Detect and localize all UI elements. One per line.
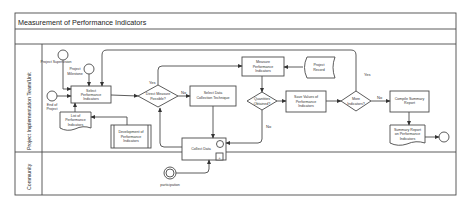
document-summary-report[interactable]: Summary Report on Performance Indicators bbox=[390, 125, 425, 145]
end-event-icon[interactable] bbox=[439, 132, 449, 142]
svg-text:Direct Measure: Direct Measure bbox=[146, 92, 170, 96]
task-collect-data[interactable]: Collect Data + bbox=[182, 138, 226, 160]
svg-text:Save Values of: Save Values of bbox=[294, 95, 318, 99]
svg-text:More: More bbox=[352, 97, 360, 101]
document-list-performance-indicators[interactable]: List of Performance Indicators bbox=[60, 112, 91, 130]
svg-text:Yes: Yes bbox=[364, 72, 371, 77]
svg-text:Project: Project bbox=[46, 107, 57, 111]
start-event-end-of-project-icon[interactable]: End of Project bbox=[46, 91, 57, 111]
task-save-values[interactable]: Save Values of Performance Indicators bbox=[286, 91, 326, 112]
diagram-title: Measurement of Performance Indicators bbox=[18, 18, 147, 27]
svg-text:Project: Project bbox=[313, 63, 324, 67]
svg-text:Report: Report bbox=[404, 101, 415, 105]
svg-text:Quantities: Quantities bbox=[254, 97, 270, 101]
svg-text:Project Supervision: Project Supervision bbox=[41, 60, 72, 64]
task-measure-performance-indicators[interactable]: Measure Performance Indicators bbox=[242, 57, 284, 76]
svg-text:Indicators: Indicators bbox=[83, 97, 99, 101]
lane-label-community: Community bbox=[26, 163, 32, 190]
svg-text:Collect Data: Collect Data bbox=[191, 147, 211, 151]
task-select-performance-indicators[interactable]: Select Performance Indicators bbox=[71, 86, 111, 103]
svg-text:Indicators?: Indicators? bbox=[347, 102, 365, 106]
svg-text:+: + bbox=[218, 156, 220, 160]
gateway-direct-measure[interactable]: Direct Measure Possible? bbox=[138, 85, 178, 107]
gateway-more-indicators[interactable]: More Indicators? bbox=[341, 91, 371, 111]
svg-text:Project Implementation Team/Un: Project Implementation Team/Unit bbox=[26, 72, 32, 150]
svg-text:Performance: Performance bbox=[65, 118, 86, 122]
svg-text:Project: Project bbox=[69, 67, 80, 71]
svg-text:Indicators: Indicators bbox=[400, 137, 416, 141]
svg-text:Performance: Performance bbox=[296, 100, 317, 104]
svg-text:No: No bbox=[266, 124, 272, 129]
task-compile-summary-report[interactable]: Compile Summary Report bbox=[390, 91, 429, 112]
svg-text:Milestone: Milestone bbox=[67, 72, 82, 76]
data-store-project-record[interactable]: Project Record bbox=[305, 57, 336, 78]
start-event-participation-icon[interactable]: participation bbox=[160, 167, 179, 187]
svg-text:Performance: Performance bbox=[253, 65, 274, 69]
start-event-project-milestone-icon[interactable]: Project Milestone bbox=[67, 64, 94, 76]
svg-text:Indicators: Indicators bbox=[255, 69, 271, 73]
svg-text:Record: Record bbox=[313, 68, 325, 72]
start-event-project-supervision-icon[interactable]: Project Supervision bbox=[41, 50, 72, 64]
svg-text:Indicators: Indicators bbox=[298, 104, 314, 108]
svg-text:No: No bbox=[377, 95, 383, 100]
svg-text:Community: Community bbox=[26, 163, 32, 190]
svg-text:Collection Technique: Collection Technique bbox=[196, 96, 229, 100]
task-select-data-collection-technique[interactable]: Select Data Collection Technique bbox=[190, 86, 236, 106]
svg-text:Indicators: Indicators bbox=[68, 123, 84, 127]
bpmn-diagram: Measurement of Performance Indicators Pr… bbox=[0, 0, 472, 207]
gateway-quantities-obtained[interactable]: Quantities Obtained? bbox=[247, 92, 277, 110]
svg-text:Development of: Development of bbox=[118, 130, 143, 134]
svg-text:Performance: Performance bbox=[121, 135, 142, 139]
svg-text:No: No bbox=[181, 90, 187, 95]
svg-text:Indicators: Indicators bbox=[123, 139, 139, 143]
lane-label-team: Project Implementation Team/Unit bbox=[26, 72, 32, 150]
svg-text:on Performance: on Performance bbox=[395, 132, 421, 136]
svg-text:Measure: Measure bbox=[256, 60, 270, 64]
svg-text:participation: participation bbox=[160, 183, 179, 187]
svg-text:Select Data: Select Data bbox=[204, 91, 223, 95]
svg-text:Obtained?: Obtained? bbox=[254, 102, 271, 106]
svg-text:Yes: Yes bbox=[149, 80, 156, 85]
svg-text:Compile Summary: Compile Summary bbox=[395, 97, 425, 101]
svg-text:Summary Report: Summary Report bbox=[394, 128, 421, 132]
svg-text:Possible?: Possible? bbox=[150, 97, 166, 101]
svg-text:List of: List of bbox=[71, 114, 81, 118]
subprocess-development-performance-indicators[interactable]: Development of Performance Indicators bbox=[111, 125, 151, 148]
